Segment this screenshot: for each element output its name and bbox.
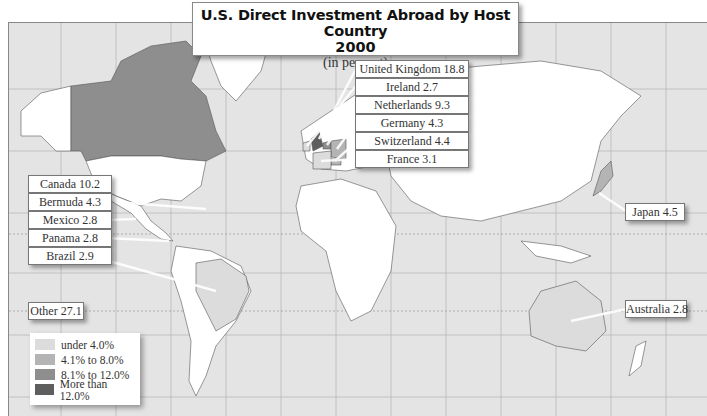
label-netherlands: Netherlands 9.3: [355, 96, 469, 114]
map-title: U.S. Direct Investment Abroad by Host Co…: [192, 2, 519, 56]
legend-label: More than 12.0%: [60, 378, 135, 402]
label-mexico: Mexico 2.8: [28, 211, 112, 229]
legend-swatch: [35, 354, 55, 365]
map-legend: under 4.0% 4.1% to 8.0% 8.1% to 12.0% Mo…: [30, 333, 140, 405]
label-japan: Japan 4.5: [625, 203, 685, 221]
legend-swatch: [35, 339, 55, 350]
legend-item: 4.1% to 8.0%: [35, 352, 135, 367]
label-germany: Germany 4.3: [355, 114, 469, 132]
label-canada: Canada 10.2: [28, 175, 112, 193]
legend-label: under 4.0%: [61, 339, 114, 351]
label-brazil: Brazil 2.9: [28, 247, 112, 265]
label-other: Other 27.1: [28, 302, 84, 320]
legend-swatch: [35, 369, 55, 380]
label-australia: Australia 2.8: [625, 300, 687, 318]
legend-item: More than 12.0%: [35, 382, 135, 397]
label-panama: Panama 2.8: [28, 229, 112, 247]
legend-label: 4.1% to 8.0%: [61, 354, 124, 366]
label-ireland: Ireland 2.7: [355, 78, 469, 96]
title-main: U.S. Direct Investment Abroad by Host Co…: [193, 7, 518, 39]
label-united-kingdom: United Kingdom 18.8: [355, 60, 469, 78]
label-france: France 3.1: [355, 150, 469, 168]
label-bermuda: Bermuda 4.3: [28, 193, 112, 211]
title-year: 2000: [193, 39, 518, 55]
label-switzerland: Switzerland 4.4: [355, 132, 469, 150]
legend-swatch: [35, 384, 54, 395]
legend-item: under 4.0%: [35, 337, 135, 352]
